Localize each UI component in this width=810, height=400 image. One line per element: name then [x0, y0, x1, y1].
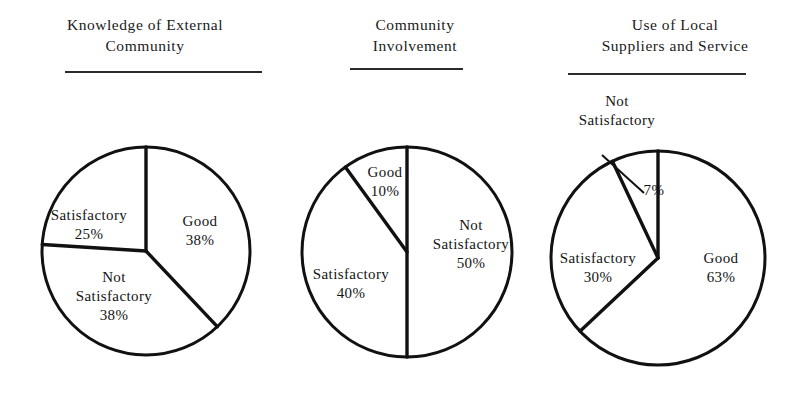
pie-1-label-good: Good 38%: [154, 212, 246, 250]
pie-2-label-good: Good 10%: [352, 163, 418, 201]
pie-3-label-satisfactory: Satisfactory 30%: [542, 249, 654, 287]
pie-2-label-not-satisfactory: Not Satisfactory 50%: [413, 216, 529, 273]
pie-3-label-not-satisfactory-callout: Not Satisfactory: [552, 92, 682, 130]
three-pie-chart-figure: Knowledge of External Community Good 38%…: [0, 0, 810, 400]
pie-1-label-satisfactory: Satisfactory 25%: [34, 206, 144, 244]
pie-2-label-satisfactory: Satisfactory 40%: [296, 265, 406, 303]
pie-panel-community-involvement: Community Involvement Good 10% Satisfact…: [290, 0, 540, 400]
pie-3-label-not-satisfactory-value: 7%: [632, 181, 676, 200]
pie-panel-use-of-local-suppliers-and-service: Use of Local Suppliers and Service Not S…: [540, 0, 810, 400]
pie-chart-3-graphic: [540, 0, 810, 400]
pie-1-label-not-satisfactory: Not Satisfactory 38%: [54, 268, 174, 325]
pie-chart-1-graphic: [0, 0, 290, 400]
pie-panel-knowledge-of-external-community: Knowledge of External Community Good 38%…: [0, 0, 290, 400]
pie-3-label-good: Good 63%: [674, 249, 768, 287]
